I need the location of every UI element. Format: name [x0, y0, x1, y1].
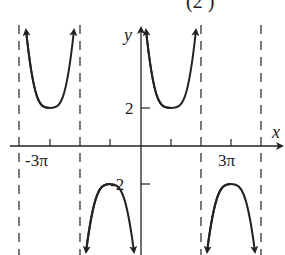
x-tick-label-neg3pi: -3π	[25, 151, 48, 170]
x-tick-label-3pi: 3π	[218, 151, 236, 170]
title-fragment: (2 )	[186, 0, 214, 13]
y-tick-label-neg2: -2	[110, 175, 124, 194]
graph: (2 ) y x -3π 3π 2 -2	[0, 0, 285, 255]
y-tick-label-2: 2	[125, 99, 134, 118]
y-axis-label: y	[122, 25, 132, 45]
asymptotes	[19, 25, 261, 255]
x-axis-label: x	[271, 122, 280, 142]
